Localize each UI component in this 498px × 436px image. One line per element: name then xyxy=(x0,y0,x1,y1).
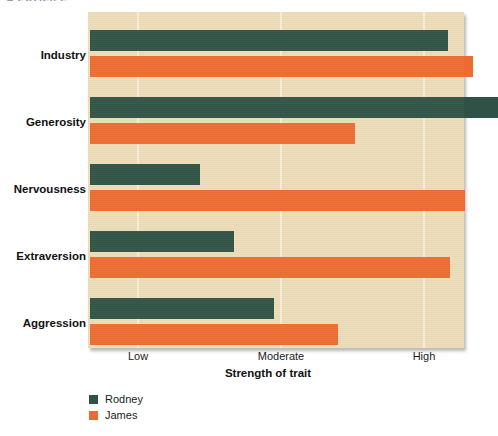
bar-james-aggression xyxy=(90,324,338,345)
legend-item-james: James xyxy=(89,407,143,423)
category-label-generosity: Generosity xyxy=(0,116,86,128)
bar-james-nervousness xyxy=(90,190,465,211)
category-label-industry: Industry xyxy=(0,49,86,61)
legend-label-james: James xyxy=(105,409,137,421)
legend-item-rodney: Rodney xyxy=(89,391,143,407)
category-label-nervousness: Nervousness xyxy=(0,183,86,195)
bar-rodney-aggression xyxy=(90,298,274,319)
xtick-label-low: Low xyxy=(128,350,148,362)
category-label-aggression: Aggression xyxy=(0,317,86,329)
bar-rodney-generosity xyxy=(90,97,498,118)
xtick-label-moderate: Moderate xyxy=(258,350,304,362)
x-axis-title: Strength of trait xyxy=(225,367,311,379)
chart-legend: Rodney James xyxy=(89,391,143,423)
plot-area xyxy=(88,12,464,348)
bar-rodney-industry xyxy=(90,30,448,51)
legend-swatch-icon-james xyxy=(89,411,98,420)
bar-rodney-nervousness xyxy=(90,164,200,185)
chart-title-clipped: A PROFILE xyxy=(6,0,68,1)
legend-label-rodney: Rodney xyxy=(105,393,143,405)
legend-swatch-icon-rodney xyxy=(89,395,98,404)
xtick-label-high: High xyxy=(413,350,436,362)
bar-james-generosity xyxy=(90,123,355,144)
bar-james-industry xyxy=(90,56,473,77)
bar-james-extraversion xyxy=(90,257,450,278)
category-label-extraversion: Extraversion xyxy=(0,250,86,262)
bar-rodney-extraversion xyxy=(90,231,234,252)
